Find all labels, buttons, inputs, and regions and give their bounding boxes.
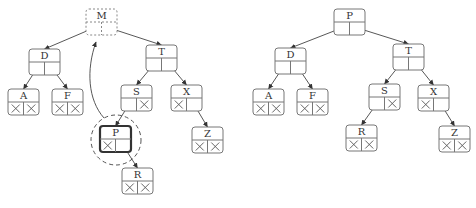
right-node-S: S <box>369 84 400 110</box>
node-label: Z <box>204 128 211 139</box>
move-successor-arrow <box>90 42 104 118</box>
left-node-M: M <box>86 9 117 35</box>
left-node-S: S <box>121 85 152 111</box>
node-label: R <box>358 126 366 137</box>
node-label: P <box>112 127 119 138</box>
right-node-F: F <box>297 89 328 115</box>
left-node-F: F <box>52 89 83 115</box>
node-label: T <box>158 46 165 57</box>
left-node-A: A <box>8 89 39 115</box>
left-node-R: R <box>122 168 153 194</box>
node-label: D <box>286 49 294 60</box>
node-label: Z <box>451 127 458 138</box>
right-node-R: R <box>346 125 377 151</box>
node-label: T <box>405 45 412 56</box>
left-node-P: P <box>100 126 131 152</box>
right-node-Z: Z <box>439 126 470 152</box>
node-label: A <box>19 90 28 101</box>
right-node-P: P <box>334 9 365 35</box>
node-label: P <box>346 10 353 21</box>
node-label: S <box>133 86 140 97</box>
node-label: X <box>183 86 191 97</box>
left-tree-before-deletion: MDAFTSXPRZ <box>8 9 223 194</box>
right-node-X: X <box>418 85 449 111</box>
node-label: R <box>134 169 142 180</box>
tree-diagram: MDAFTSXPRZ PDAFTSXRZ <box>0 0 476 208</box>
node-label: S <box>381 85 388 96</box>
node-label: M <box>96 10 106 21</box>
right-tree-after-deletion: PDAFTSXRZ <box>253 9 470 152</box>
left-node-T: T <box>146 45 177 71</box>
left-node-D: D <box>29 49 60 75</box>
right-node-A: A <box>253 89 284 115</box>
node-label: F <box>309 90 316 101</box>
right-node-T: T <box>393 44 424 70</box>
node-label: A <box>264 90 273 101</box>
left-node-Z: Z <box>192 127 223 153</box>
left-node-X: X <box>171 85 202 111</box>
node-label: X <box>430 86 438 97</box>
right-node-D: D <box>275 48 306 74</box>
node-label: F <box>64 90 71 101</box>
node-label: D <box>40 50 48 61</box>
